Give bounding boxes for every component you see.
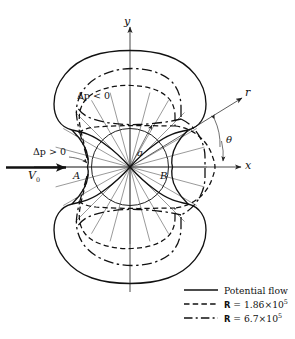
front-stagnation-point-label: A xyxy=(73,171,80,181)
legend-key-dashed xyxy=(183,299,219,309)
x-axis-label: x xyxy=(245,160,251,171)
reynolds-exponent-2: 5 xyxy=(278,312,282,320)
legend-label-reynolds-186e5: R = 1.86×105 xyxy=(224,298,288,310)
legend-key-dashdot xyxy=(183,313,219,323)
reynolds-value-2: = 6.7×10 xyxy=(230,313,278,324)
theta-arc xyxy=(215,119,224,161)
delta-p-negative-label: Δp < 0 xyxy=(77,91,110,101)
reynolds-value-1: = 1.86×10 xyxy=(230,299,283,310)
r-axis-label: r xyxy=(245,87,250,98)
figure-canvas: y x r θ a Δp < 0 Δp > 0 V0 A B Potential… xyxy=(0,0,295,339)
delta-p-positive-label: Δp > 0 xyxy=(33,147,66,157)
legend-label-potential-flow: Potential flow xyxy=(224,285,288,296)
legend-item-potential-flow: Potential flow xyxy=(183,283,295,297)
legend-label-reynolds-67e5: R = 6.7×105 xyxy=(224,312,282,324)
free-stream-subscript: 0 xyxy=(36,176,40,184)
leader-delta-p-positive xyxy=(69,157,87,163)
legend-item-reynolds-67e5: R = 6.7×105 xyxy=(183,311,295,325)
legend-key-solid xyxy=(183,285,219,295)
rear-stagnation-point-label: B xyxy=(160,171,167,181)
reynolds-exponent-1: 5 xyxy=(284,298,288,306)
cylinder-radius-label: a xyxy=(137,148,143,158)
theta-angle-label: θ xyxy=(226,135,232,145)
y-axis-label: y xyxy=(124,16,130,27)
free-stream-symbol: V xyxy=(28,169,36,182)
legend-item-reynolds-186e5: R = 1.86×105 xyxy=(183,297,295,311)
legend: Potential flow R = 1.86×105 R = 6.7×105 xyxy=(183,283,295,325)
free-stream-velocity-label: V0 xyxy=(28,170,40,184)
